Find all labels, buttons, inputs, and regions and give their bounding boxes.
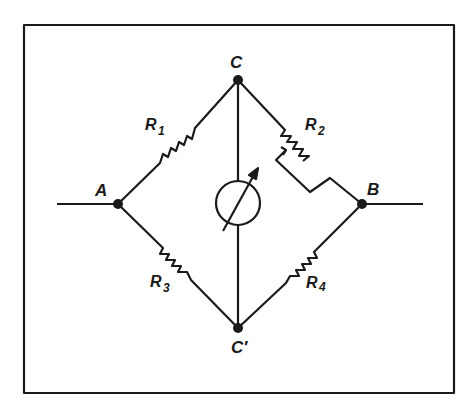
label-node-c: C — [230, 53, 243, 72]
label-r1: R 1 — [145, 116, 165, 138]
resistor-r1 — [118, 80, 238, 204]
label-r3: R 3 — [150, 273, 170, 295]
node-a-dot — [113, 199, 123, 209]
wheatstone-bridge-diagram: C A B C′ R 1 R 2 R 3 R 4 — [0, 0, 475, 411]
svg-text:2: 2 — [317, 124, 325, 138]
label-node-cprime: C′ — [231, 338, 248, 357]
node-c-dot — [233, 75, 243, 85]
resistor-r2 — [238, 80, 362, 204]
label-r4: R 4 — [306, 274, 326, 294]
svg-text:1: 1 — [158, 124, 165, 138]
node-b-dot — [357, 199, 367, 209]
resistor-r4 — [238, 204, 362, 328]
svg-text:R: R — [305, 116, 317, 133]
label-node-a: A — [94, 181, 107, 200]
svg-text:3: 3 — [163, 281, 170, 295]
label-r2: R 2 — [305, 116, 325, 138]
resistor-r3 — [118, 204, 238, 328]
svg-text:R: R — [145, 116, 157, 133]
node-cprime-dot — [233, 323, 243, 333]
svg-text:4: 4 — [318, 280, 326, 294]
svg-text:R: R — [306, 274, 318, 291]
svg-text:R: R — [150, 273, 162, 290]
label-node-b: B — [367, 180, 379, 199]
